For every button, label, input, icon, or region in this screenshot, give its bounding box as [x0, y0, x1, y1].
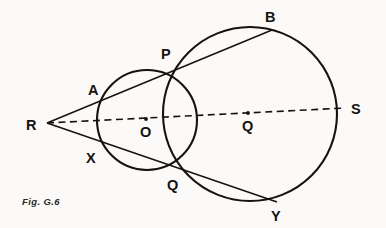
point-label-P: P: [161, 46, 171, 62]
secant-line-lower-RXQY: [47, 123, 277, 202]
point-label-Y: Y: [271, 208, 281, 224]
point-label-Q-intersection: Q: [167, 177, 178, 193]
point-label-B: B: [265, 9, 275, 25]
centre-label-O: O: [140, 124, 151, 140]
secant-line-upper-RAPB: [47, 30, 272, 123]
figure-container: R A P B X Q Y S O Q Fig. G.6: [0, 0, 386, 228]
geometry-diagram: R A P B X Q Y S O Q: [0, 0, 386, 228]
point-label-S: S: [351, 101, 361, 117]
point-label-A: A: [88, 82, 99, 98]
figure-caption: Fig. G.6: [22, 196, 60, 207]
centre-dot-O: [144, 117, 148, 121]
point-label-R: R: [26, 117, 37, 133]
large-circle-Q: [163, 27, 337, 201]
centre-label-Q: Q: [242, 118, 253, 134]
point-label-X: X: [86, 150, 96, 166]
centre-dot-Q: [246, 111, 250, 115]
